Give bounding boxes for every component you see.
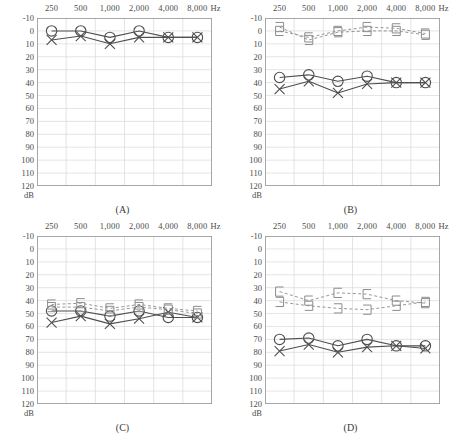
y-tick-d-4: 30 bbox=[254, 283, 263, 292]
x-tick-b-5: 8,000 bbox=[415, 4, 435, 13]
y-tick-c-0: -10 bbox=[23, 232, 34, 241]
y-tick-d-5: 40 bbox=[254, 296, 263, 305]
x-tick-d-5: 8,000 bbox=[415, 222, 435, 231]
y-tick-d-1: 0 bbox=[258, 244, 262, 253]
y-tick-d-0: -10 bbox=[251, 232, 262, 241]
y-tick-c-8: 70 bbox=[26, 335, 35, 344]
panel-caption-d: (D) bbox=[228, 422, 455, 433]
audiogram-figure: 2505001,0002,0004,0008,000Hz -1001020304… bbox=[0, 0, 455, 435]
y-tick-a-6: 50 bbox=[26, 91, 35, 100]
x-tick-a-0: 250 bbox=[45, 4, 58, 13]
y-tick-b-7: 60 bbox=[254, 104, 263, 113]
plot-area-b bbox=[265, 18, 440, 186]
plot-area-c bbox=[37, 236, 212, 404]
gridlines-b bbox=[265, 18, 440, 186]
y-tick-b-1: 0 bbox=[258, 26, 262, 35]
x-tick-b-1: 500 bbox=[302, 4, 315, 13]
y-tick-b-0: -10 bbox=[251, 14, 262, 23]
y-tick-a-3: 20 bbox=[26, 52, 35, 61]
x-tick-b-0: 250 bbox=[273, 4, 286, 13]
y-tick-b-12: 110 bbox=[250, 169, 262, 178]
y-tick-a-2: 10 bbox=[26, 39, 35, 48]
y-tick-a-12: 110 bbox=[22, 169, 34, 178]
x-tick-c-4: 4,000 bbox=[158, 222, 178, 231]
y-tick-c-3: 20 bbox=[26, 270, 35, 279]
y-tick-d-12: 110 bbox=[250, 387, 262, 396]
audiogram-plot-c bbox=[37, 236, 212, 404]
y-tick-c-2: 10 bbox=[26, 257, 35, 266]
y-tick-c-10: 90 bbox=[26, 361, 35, 370]
x-tick-a-2: 1,000 bbox=[100, 4, 120, 13]
y-tick-c-9: 80 bbox=[26, 348, 35, 357]
y-tick-b-3: 20 bbox=[254, 52, 263, 61]
y-tick-a-0: -10 bbox=[23, 14, 34, 23]
x-tick-a-3: 2,000 bbox=[129, 4, 149, 13]
x-tick-d-4: 4,000 bbox=[386, 222, 406, 231]
panel-caption-a: (A) bbox=[0, 204, 227, 215]
y-axis-labels-c: -100102030405060708090100110120dB bbox=[0, 218, 36, 435]
y-tick-c-1: 0 bbox=[30, 244, 34, 253]
y-tick-a-10: 90 bbox=[26, 143, 35, 152]
y-axis-labels-b: -100102030405060708090100110120dB bbox=[228, 0, 264, 217]
y-tick-a-11: 100 bbox=[21, 156, 34, 165]
y-tick-a-8: 70 bbox=[26, 117, 35, 126]
y-tick-d-7: 60 bbox=[254, 322, 263, 331]
panel-caption-a-text: (A) bbox=[98, 204, 130, 215]
x-tick-a-4: 4,000 bbox=[158, 4, 178, 13]
x-axis-unit-c: Hz bbox=[210, 222, 220, 231]
panel-caption-b: (B) bbox=[228, 204, 455, 215]
y-axis-unit-c: dB bbox=[24, 409, 34, 418]
gridlines-a bbox=[37, 18, 212, 186]
y-tick-b-4: 30 bbox=[254, 65, 263, 74]
y-tick-b-9: 80 bbox=[254, 130, 263, 139]
audiogram-panel-b: 2505001,0002,0004,0008,000Hz -1001020304… bbox=[228, 0, 455, 217]
x-tick-c-3: 2,000 bbox=[129, 222, 149, 231]
y-tick-c-5: 40 bbox=[26, 296, 35, 305]
y-tick-a-1: 0 bbox=[30, 26, 34, 35]
x-tick-c-5: 8,000 bbox=[187, 222, 207, 231]
y-tick-a-4: 30 bbox=[26, 65, 35, 74]
y-tick-a-9: 80 bbox=[26, 130, 35, 139]
y-tick-a-7: 60 bbox=[26, 104, 35, 113]
panel-caption-c: (C) bbox=[0, 422, 227, 433]
x-tick-b-2: 1,000 bbox=[328, 4, 348, 13]
y-tick-c-12: 110 bbox=[22, 387, 34, 396]
x-axis-unit-a: Hz bbox=[210, 4, 220, 13]
y-tick-b-10: 90 bbox=[254, 143, 263, 152]
y-axis-labels-d: -100102030405060708090100110120dB bbox=[228, 218, 264, 435]
x-tick-c-2: 1,000 bbox=[100, 222, 120, 231]
y-tick-d-9: 80 bbox=[254, 348, 263, 357]
x-tick-a-1: 500 bbox=[74, 4, 87, 13]
x-tick-d-2: 1,000 bbox=[328, 222, 348, 231]
y-tick-d-3: 20 bbox=[254, 270, 263, 279]
x-axis-unit-d: Hz bbox=[438, 222, 448, 231]
y-tick-a-5: 40 bbox=[26, 78, 35, 87]
y-tick-d-6: 50 bbox=[254, 309, 263, 318]
x-tick-d-1: 500 bbox=[302, 222, 315, 231]
audiogram-panel-a: 2505001,0002,0004,0008,000Hz -1001020304… bbox=[0, 0, 227, 217]
y-tick-c-6: 50 bbox=[26, 309, 35, 318]
y-tick-d-10: 90 bbox=[254, 361, 263, 370]
y-axis-unit-a: dB bbox=[24, 191, 34, 200]
x-axis-unit-b: Hz bbox=[438, 4, 448, 13]
panel-caption-b-text: (B) bbox=[326, 204, 357, 215]
y-tick-c-4: 30 bbox=[26, 283, 35, 292]
y-axis-unit-d: dB bbox=[252, 409, 262, 418]
panel-caption-d-text: (D) bbox=[326, 422, 358, 433]
y-tick-c-7: 60 bbox=[26, 322, 35, 331]
audiogram-plot-a bbox=[37, 18, 212, 186]
y-tick-d-8: 70 bbox=[254, 335, 263, 344]
y-tick-b-6: 50 bbox=[254, 91, 263, 100]
plot-area-a bbox=[37, 18, 212, 186]
x-tick-d-3: 2,000 bbox=[357, 222, 377, 231]
y-axis-unit-b: dB bbox=[252, 191, 262, 200]
x-tick-d-0: 250 bbox=[273, 222, 286, 231]
x-tick-b-4: 4,000 bbox=[386, 4, 406, 13]
plot-area-d bbox=[265, 236, 440, 404]
y-tick-d-2: 10 bbox=[254, 257, 263, 266]
panel-caption-c-text: (C) bbox=[98, 422, 129, 433]
x-tick-c-0: 250 bbox=[45, 222, 58, 231]
x-tick-a-5: 8,000 bbox=[187, 4, 207, 13]
y-tick-b-11: 100 bbox=[249, 156, 262, 165]
gridlines-d bbox=[265, 236, 440, 404]
